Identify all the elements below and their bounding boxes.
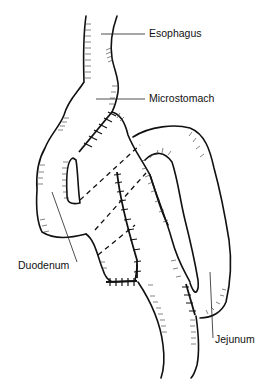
inner-limb xyxy=(150,175,190,282)
efferent-limb-right xyxy=(191,316,199,378)
label-duodenum: Duodenum xyxy=(18,259,69,271)
anastomosis-window xyxy=(67,158,80,204)
leader-duodenum xyxy=(52,192,77,262)
hidden-line-upper xyxy=(80,145,140,200)
duodenum-segment xyxy=(86,234,137,282)
suture-line-jejunal xyxy=(186,284,195,315)
esophagus-right-wall xyxy=(111,16,118,112)
esophagus-left-wall xyxy=(37,16,86,238)
leader-jejunum xyxy=(210,272,213,338)
microstomach-right-side xyxy=(112,112,168,225)
diagram-drawing xyxy=(0,0,269,385)
label-jejunum: Jejunum xyxy=(215,333,255,345)
suture-line-gastric xyxy=(79,112,112,152)
efferent-limb-left xyxy=(138,282,164,378)
surgical-anatomy-diagram: Esophagus Microstomach Duodenum Jejunum xyxy=(0,0,269,385)
jejunal-loop-outer xyxy=(133,126,230,318)
jejunal-loop-inner xyxy=(145,153,198,292)
suture-stitches xyxy=(84,112,196,311)
hidden-line-lower xyxy=(95,173,146,230)
label-esophagus: Esophagus xyxy=(149,27,202,39)
label-microstomach: Microstomach xyxy=(149,92,214,104)
